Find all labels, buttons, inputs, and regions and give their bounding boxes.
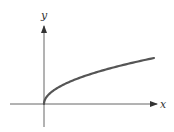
x-axis-label: x bbox=[160, 98, 167, 111]
chart-canvas: x y bbox=[0, 0, 174, 132]
y-axis-label: y bbox=[40, 9, 48, 22]
sqrt-curve bbox=[44, 58, 154, 104]
sqrt-function-graph: x y bbox=[0, 0, 174, 132]
